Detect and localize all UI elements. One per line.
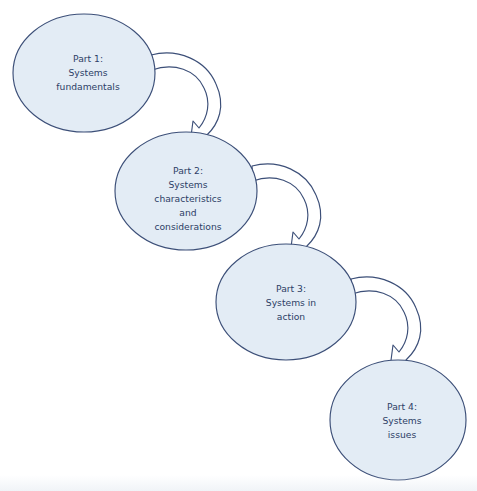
node-part-2-line-2: Systems (168, 179, 207, 190)
curved-hook-arrow-icon (351, 277, 421, 368)
node-part-2[interactable]: Part 2: Systems characteristics and cons… (115, 132, 257, 250)
curved-hook-arrow-icon (252, 164, 321, 255)
connector-part3-to-part4 (351, 277, 421, 368)
connector-part1-to-part2 (151, 53, 221, 144)
connector-part2-to-part3 (252, 164, 321, 255)
node-part-2-ellipse[interactable] (115, 132, 257, 250)
node-part-1[interactable]: Part 1: Systems fundamentals (13, 14, 155, 132)
node-part-4[interactable]: Part 4: Systems issues (330, 360, 466, 480)
diagram-svg: Part 1: Systems fundamentals Part 2: Sys… (0, 0, 477, 491)
node-part-2-line-3: characteristics (154, 193, 222, 204)
curved-hook-arrow-icon (151, 53, 221, 144)
node-part-4-line-3: issues (388, 429, 417, 440)
node-part-4-line-1: Part 4: (387, 401, 417, 412)
node-part-1-line-2: Systems (68, 67, 107, 78)
node-part-1-line-1: Part 1: (73, 53, 103, 64)
node-part-3-line-3: action (277, 311, 305, 322)
diagram-canvas: Part 1: Systems fundamentals Part 2: Sys… (0, 0, 477, 491)
node-part-2-line-5: considerations (154, 221, 221, 232)
node-part-1-line-3: fundamentals (56, 81, 120, 92)
node-part-3[interactable]: Part 3: Systems in action (216, 244, 356, 360)
node-part-3-line-2: Systems in (266, 297, 317, 308)
node-part-2-line-4: and (179, 207, 196, 218)
node-part-2-line-1: Part 2: (173, 165, 203, 176)
node-part-4-line-2: Systems (382, 415, 421, 426)
node-part-3-line-1: Part 3: (276, 283, 306, 294)
